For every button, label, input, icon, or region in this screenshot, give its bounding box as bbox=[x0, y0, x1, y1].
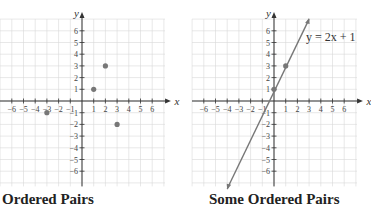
data-point bbox=[283, 63, 288, 68]
svg-text:3: 3 bbox=[115, 105, 119, 114]
svg-text:5: 5 bbox=[331, 105, 335, 114]
svg-text:−2: −2 bbox=[246, 105, 255, 114]
svg-text:−4: −4 bbox=[31, 105, 40, 114]
svg-text:1: 1 bbox=[74, 85, 78, 94]
svg-text:4: 4 bbox=[127, 105, 131, 114]
plot-some-ordered-pairs: xy−6−5−4−3−2−1123456−6−5−4−3−2−1123456y … bbox=[192, 7, 371, 190]
plot-ordered-pairs: xy−6−5−4−3−2−1123456−6−5−4−3−2−1123456 bbox=[0, 7, 179, 187]
svg-text:6: 6 bbox=[150, 105, 154, 114]
svg-text:x: x bbox=[365, 95, 371, 107]
svg-text:2: 2 bbox=[103, 105, 107, 114]
svg-text:1: 1 bbox=[266, 85, 270, 94]
svg-text:6: 6 bbox=[266, 27, 270, 36]
equation-label: y = 2x + 1 bbox=[306, 30, 356, 44]
svg-text:−5: −5 bbox=[261, 156, 270, 165]
svg-text:−6: −6 bbox=[261, 167, 270, 176]
svg-text:1: 1 bbox=[92, 105, 96, 114]
svg-text:−5: −5 bbox=[19, 105, 28, 114]
svg-text:−3: −3 bbox=[69, 132, 78, 141]
svg-text:2: 2 bbox=[266, 74, 270, 83]
svg-text:−2: −2 bbox=[54, 105, 63, 114]
svg-text:4: 4 bbox=[266, 50, 270, 59]
svg-text:−6: −6 bbox=[8, 105, 17, 114]
svg-text:−3: −3 bbox=[235, 105, 244, 114]
svg-text:2: 2 bbox=[74, 74, 78, 83]
svg-text:−5: −5 bbox=[211, 105, 220, 114]
svg-text:−5: −5 bbox=[69, 156, 78, 165]
svg-text:−2: −2 bbox=[261, 120, 270, 129]
svg-text:3: 3 bbox=[307, 105, 311, 114]
svg-text:6: 6 bbox=[74, 27, 78, 36]
svg-text:−4: −4 bbox=[261, 144, 270, 153]
svg-text:−3: −3 bbox=[261, 132, 270, 141]
svg-text:4: 4 bbox=[74, 50, 78, 59]
svg-text:−1: −1 bbox=[69, 109, 78, 118]
svg-text:−2: −2 bbox=[69, 120, 78, 129]
data-point bbox=[115, 122, 120, 127]
svg-text:−4: −4 bbox=[223, 105, 232, 114]
svg-text:2: 2 bbox=[295, 105, 299, 114]
svg-text:3: 3 bbox=[266, 62, 270, 71]
svg-text:−4: −4 bbox=[69, 144, 78, 153]
data-point bbox=[103, 63, 108, 68]
svg-text:−6: −6 bbox=[200, 105, 209, 114]
svg-text:5: 5 bbox=[139, 105, 143, 114]
data-point bbox=[271, 87, 276, 92]
caption-right: Some Ordered Pairs bbox=[209, 191, 340, 208]
svg-text:−6: −6 bbox=[69, 167, 78, 176]
data-point bbox=[91, 87, 96, 92]
svg-text:y: y bbox=[265, 7, 271, 19]
svg-text:1: 1 bbox=[284, 105, 288, 114]
svg-text:5: 5 bbox=[74, 39, 78, 48]
data-point bbox=[44, 110, 49, 115]
svg-text:x: x bbox=[173, 95, 179, 107]
svg-text:y: y bbox=[73, 7, 79, 19]
caption-left: Ordered Pairs bbox=[2, 191, 94, 208]
svg-text:4: 4 bbox=[319, 105, 323, 114]
svg-text:3: 3 bbox=[74, 62, 78, 71]
svg-text:5: 5 bbox=[266, 39, 270, 48]
plots: xy−6−5−4−3−2−1123456−6−5−4−3−2−1123456xy… bbox=[0, 0, 371, 214]
svg-text:6: 6 bbox=[342, 105, 346, 114]
